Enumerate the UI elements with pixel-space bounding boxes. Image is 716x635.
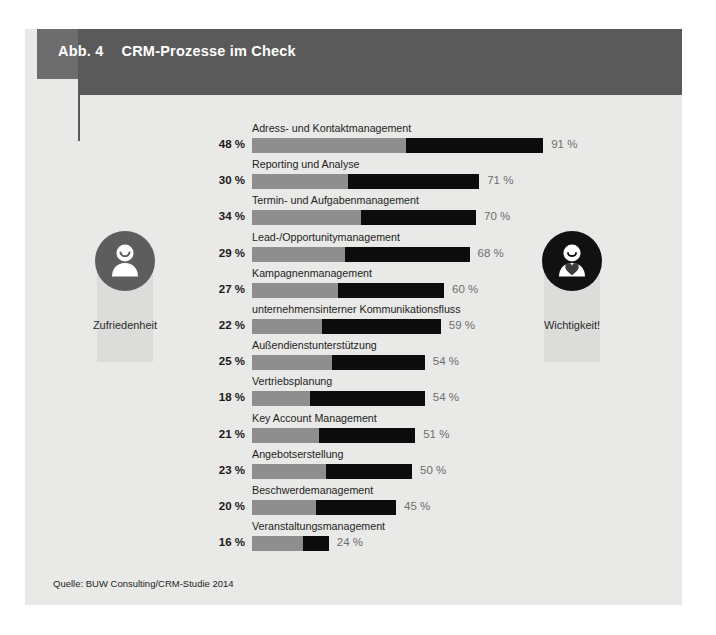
bar-row: Termin- und Aufgabenmanagement34 %70 % bbox=[25, 197, 682, 233]
bar-category-label: Termin- und Aufgabenmanagement bbox=[252, 194, 419, 206]
bar-category-label: unternehmensinterner Kommunikationsfluss bbox=[252, 303, 461, 315]
bar-category-label: Angebotserstellung bbox=[252, 448, 344, 460]
bar-row: unternehmensinterner Kommunikationsfluss… bbox=[25, 306, 682, 342]
stacked-bar bbox=[252, 283, 444, 298]
importance-segment bbox=[310, 391, 425, 406]
bar-category-label: Vertriebsplanung bbox=[252, 375, 332, 387]
importance-value-label: 50 % bbox=[420, 464, 446, 476]
bar-category-label: Beschwerdemanagement bbox=[252, 484, 373, 496]
importance-value-label: 54 % bbox=[433, 391, 459, 403]
importance-value-label: 51 % bbox=[423, 428, 449, 440]
bar-chart-plot: Adress- und Kontaktmanagement48 %91 %Rep… bbox=[25, 29, 682, 605]
importance-segment bbox=[316, 500, 396, 515]
source-note: Quelle: BUW Consulting/CRM-Studie 2014 bbox=[53, 578, 234, 589]
satisfaction-value-label: 20 % bbox=[185, 500, 245, 512]
bar-row: Veranstaltungsmanagement16 %24 % bbox=[25, 523, 682, 559]
importance-value-label: 91 % bbox=[551, 138, 577, 150]
bar-row: Angebotserstellung23 %50 % bbox=[25, 451, 682, 487]
satisfaction-segment bbox=[252, 138, 406, 153]
satisfaction-value-label: 25 % bbox=[185, 355, 245, 367]
importance-segment bbox=[361, 210, 476, 225]
satisfaction-value-label: 23 % bbox=[185, 464, 245, 476]
importance-segment bbox=[406, 138, 544, 153]
importance-value-label: 68 % bbox=[478, 247, 504, 259]
stacked-bar bbox=[252, 247, 470, 262]
importance-segment bbox=[332, 355, 425, 370]
satisfaction-value-label: 48 % bbox=[185, 138, 245, 150]
satisfaction-value-label: 30 % bbox=[185, 174, 245, 186]
importance-value-label: 60 % bbox=[452, 283, 478, 295]
satisfaction-value-label: 34 % bbox=[185, 210, 245, 222]
importance-segment bbox=[326, 464, 412, 479]
bar-category-label: Lead-/Opportunitymanagement bbox=[252, 231, 400, 243]
satisfaction-value-label: 16 % bbox=[185, 536, 245, 548]
importance-value-label: 45 % bbox=[404, 500, 430, 512]
satisfaction-segment bbox=[252, 174, 348, 189]
stacked-bar bbox=[252, 210, 476, 225]
bar-row: Adress- und Kontaktmanagement48 %91 % bbox=[25, 125, 682, 161]
bar-category-label: Veranstaltungsmanagement bbox=[252, 520, 385, 532]
stacked-bar bbox=[252, 464, 412, 479]
satisfaction-segment bbox=[252, 428, 319, 443]
importance-segment bbox=[348, 174, 479, 189]
bar-row: Key Account Management21 %51 % bbox=[25, 415, 682, 451]
importance-value-label: 59 % bbox=[449, 319, 475, 331]
satisfaction-value-label: 21 % bbox=[185, 428, 245, 440]
bar-row: Kampagnenmanagement27 %60 % bbox=[25, 270, 682, 306]
bar-row: Beschwerdemanagement20 %45 % bbox=[25, 487, 682, 523]
satisfaction-value-label: 18 % bbox=[185, 391, 245, 403]
satisfaction-segment bbox=[252, 391, 310, 406]
bar-category-label: Außendienstunterstützung bbox=[252, 339, 377, 351]
bar-category-label: Reporting und Analyse bbox=[252, 158, 360, 170]
importance-segment bbox=[338, 283, 444, 298]
importance-value-label: 71 % bbox=[487, 174, 513, 186]
satisfaction-segment bbox=[252, 319, 322, 334]
satisfaction-segment bbox=[252, 536, 303, 551]
figure-panel: Abb. 4CRM-Prozesse im Check Zufriedenhei… bbox=[25, 29, 682, 605]
importance-value-label: 70 % bbox=[484, 210, 510, 222]
stacked-bar bbox=[252, 355, 425, 370]
bar-row: Reporting und Analyse30 %71 % bbox=[25, 161, 682, 197]
bar-row: Vertriebsplanung18 %54 % bbox=[25, 378, 682, 414]
importance-segment bbox=[345, 247, 470, 262]
importance-segment bbox=[303, 536, 329, 551]
satisfaction-segment bbox=[252, 500, 316, 515]
satisfaction-segment bbox=[252, 283, 338, 298]
stacked-bar bbox=[252, 174, 479, 189]
stacked-bar bbox=[252, 500, 396, 515]
satisfaction-value-label: 29 % bbox=[185, 247, 245, 259]
importance-segment bbox=[319, 428, 415, 443]
satisfaction-segment bbox=[252, 355, 332, 370]
bar-row: Außendienstunterstützung25 %54 % bbox=[25, 342, 682, 378]
stacked-bar bbox=[252, 536, 329, 551]
importance-value-label: 54 % bbox=[433, 355, 459, 367]
satisfaction-segment bbox=[252, 464, 326, 479]
bar-category-label: Adress- und Kontaktmanagement bbox=[252, 122, 411, 134]
importance-segment bbox=[322, 319, 440, 334]
satisfaction-value-label: 22 % bbox=[185, 319, 245, 331]
satisfaction-segment bbox=[252, 210, 361, 225]
importance-value-label: 24 % bbox=[337, 536, 363, 548]
stacked-bar bbox=[252, 391, 425, 406]
stacked-bar bbox=[252, 319, 441, 334]
stacked-bar bbox=[252, 428, 415, 443]
bar-category-label: Key Account Management bbox=[252, 412, 377, 424]
bar-category-label: Kampagnenmanagement bbox=[252, 267, 372, 279]
satisfaction-segment bbox=[252, 247, 345, 262]
satisfaction-value-label: 27 % bbox=[185, 283, 245, 295]
bar-row: Lead-/Opportunitymanagement29 %68 % bbox=[25, 234, 682, 270]
stacked-bar bbox=[252, 138, 543, 153]
